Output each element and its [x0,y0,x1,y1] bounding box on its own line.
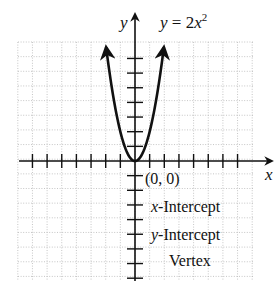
origin-point-label: (0, 0) [145,170,180,188]
equation-lhs: = 2 [168,13,195,32]
y-axis-label: y [118,13,128,32]
y-intercept-label: y-Intercept [149,226,221,244]
x-intercept-label: x-Intercept [150,198,221,216]
x-axis-label: x [264,165,273,184]
vertex-label: Vertex [169,252,211,269]
equation-label: y = 2x2 [158,11,207,32]
parabola-graph: y y = 2x2 x (0, 0) x-Intercept y-Interce… [0,0,276,305]
